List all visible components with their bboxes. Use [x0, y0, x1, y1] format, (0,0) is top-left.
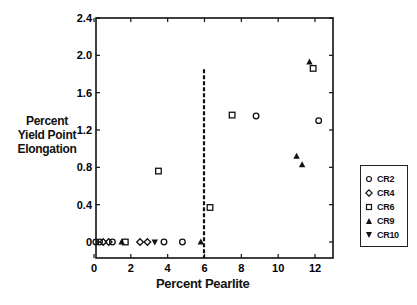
legend-label: CR4 [377, 188, 394, 198]
x-tick-label: 0 [91, 262, 97, 274]
square-marker-icon [365, 203, 373, 211]
circle-marker-icon [161, 239, 167, 245]
square-marker-icon [207, 205, 213, 211]
diamond-marker-icon [144, 239, 151, 246]
y-tick-label: 2.0 [77, 49, 92, 61]
circle-marker-icon [365, 175, 373, 183]
square-marker-icon [156, 168, 162, 174]
y-axis-title-line-3: Elongation [2, 142, 92, 156]
x-axis-title: Percent Pearlite [156, 276, 249, 291]
y-tick-label: 0 [86, 236, 92, 248]
legend-item-cr6: CR6 [365, 200, 407, 214]
diamond-marker-icon [365, 189, 373, 197]
data-points [93, 58, 321, 245]
circle-marker-icon [253, 113, 259, 119]
circle-marker-icon [316, 118, 322, 124]
legend-label: CR10 [377, 230, 399, 240]
x-tick-label: 10 [272, 262, 284, 274]
x-tick-label: 12 [309, 262, 321, 274]
square-marker-icon [229, 112, 235, 118]
axes: 00.40.81.21.62.02.4024681012 [77, 12, 333, 274]
triangle-up-marker-icon [293, 153, 299, 159]
legend-item-cr10: CR10 [365, 228, 407, 242]
y-axis-title: Percent Yield Point Elongation [2, 114, 92, 156]
y-axis-title-line-2: Yield Point [2, 128, 92, 142]
triangle-down-marker-icon [365, 231, 373, 239]
circle-marker-icon [180, 239, 186, 245]
y-tick-label: 1.6 [77, 87, 92, 99]
triangle-down-marker-icon [152, 239, 158, 245]
triangle-up-marker-icon [299, 161, 305, 167]
x-tick-label: 4 [165, 262, 172, 274]
legend-item-cr9: CR9 [365, 214, 407, 228]
triangle-up-marker-icon [365, 217, 373, 225]
legend-item-cr4: CR4 [365, 186, 407, 200]
y-tick-label: 0.8 [77, 161, 92, 173]
square-marker-icon [310, 66, 316, 72]
diamond-marker-icon [137, 239, 144, 246]
x-tick-label: 2 [128, 262, 134, 274]
y-tick-label: 2.4 [77, 12, 93, 24]
triangle-up-marker-icon [306, 58, 312, 64]
legend-label: CR2 [377, 174, 394, 184]
x-tick-label: 6 [201, 262, 207, 274]
legend: CR2 CR4 CR6 CR9 CR10 [360, 165, 408, 247]
plot-frame [96, 18, 333, 258]
x-tick-label: 8 [238, 262, 244, 274]
legend-label: CR9 [377, 216, 394, 226]
y-tick-label: 0.4 [77, 199, 93, 211]
legend-label: CR6 [377, 202, 394, 212]
legend-item-cr2: CR2 [365, 172, 407, 186]
y-axis-title-line-1: Percent [2, 114, 92, 128]
